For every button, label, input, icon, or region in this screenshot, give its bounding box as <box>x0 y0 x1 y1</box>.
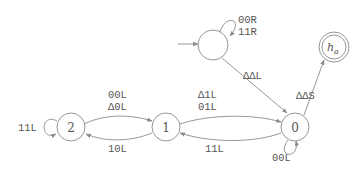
edge-1-to-2-bottom <box>86 133 152 140</box>
state-halt: ha <box>319 32 349 62</box>
edge-2-to-1-top <box>84 116 152 124</box>
label-0-loop: 00L <box>272 152 291 164</box>
label-2-1-top-2: Δ0L <box>108 101 127 113</box>
label-start-to-0: ΔΔL <box>243 70 262 82</box>
state-1-label: 1 <box>162 121 170 135</box>
state-start <box>198 30 228 60</box>
edge-start-to-0 <box>222 58 287 113</box>
label-1-to-2: 10L <box>108 143 127 155</box>
label-2-1-top-1: 00L <box>108 89 127 101</box>
label-start-loop-1: 00R <box>238 14 258 26</box>
label-0-1-top-1: Δ1L <box>198 89 217 101</box>
label-1-to-0: 11L <box>205 143 224 155</box>
edge-1-to-0-top <box>180 116 281 124</box>
label-0-to-halt: ΔΔS <box>296 90 315 102</box>
state-2-label: 2 <box>67 121 75 135</box>
edge-0-to-halt <box>304 60 324 115</box>
label-2-loop: 11L <box>18 122 37 134</box>
label-start-loop-2: 11R <box>238 26 258 38</box>
edge-0-to-1-bottom <box>180 133 281 141</box>
state-diagram: ha 0 1 2 00R 11R ΔΔL ΔΔS Δ1L 01L 11L 00L… <box>0 0 361 169</box>
state-0-label: 0 <box>291 121 299 135</box>
edge-2-loop <box>44 119 57 135</box>
label-0-1-top-2: 01L <box>198 101 217 113</box>
